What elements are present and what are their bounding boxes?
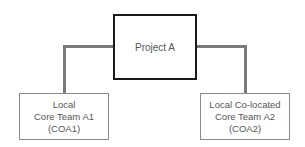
node-line: Local — [53, 99, 76, 111]
connector-left-horizontal — [63, 45, 114, 48]
core-team-a2-node: Local Co-located Core Team A2 (COA2) — [200, 93, 290, 140]
node-line: (COA1) — [48, 123, 80, 135]
node-line: Core Team A2 — [215, 111, 275, 123]
connector-left-vertical — [63, 45, 66, 94]
core-team-a1-node: Local Core Team A1 (COA1) — [19, 93, 109, 140]
node-line: Local Co-located — [209, 99, 280, 111]
connector-right-horizontal — [196, 45, 247, 48]
project-a-node: Project A — [113, 14, 197, 80]
node-line: Core Team A1 — [34, 111, 94, 123]
project-a-label: Project A — [135, 42, 175, 53]
connector-right-vertical — [244, 45, 247, 94]
node-line: (COA2) — [229, 123, 261, 135]
